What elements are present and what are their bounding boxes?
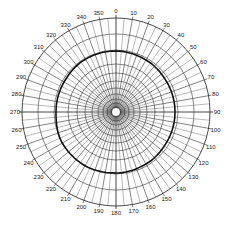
grid-spoke [62, 35, 114, 109]
grid-spoke [42, 50, 113, 110]
angle-label: 260 [12, 127, 23, 133]
angle-label: 190 [93, 208, 104, 214]
angle-label: 240 [24, 160, 35, 166]
grid-spoke [117, 116, 133, 208]
center-hub [113, 109, 119, 115]
grid-spoke [118, 115, 170, 189]
grid-spoke [99, 16, 115, 108]
angle-label: 230 [34, 174, 45, 180]
angle-label: 270 [10, 109, 21, 115]
angle-label: 0 [114, 8, 118, 14]
angle-label: 80 [212, 91, 219, 97]
angle-label: 330 [60, 22, 71, 28]
angle-label: 250 [16, 144, 27, 150]
grid-spoke [117, 16, 133, 108]
grid-spoke [119, 64, 200, 111]
angle-label: 290 [16, 74, 27, 80]
angle-label: 120 [198, 160, 209, 166]
grid-spoke [119, 50, 190, 110]
grid-spoke [119, 114, 193, 166]
angle-label: 40 [178, 32, 185, 38]
grid-spoke [118, 35, 170, 109]
angle-label: 160 [146, 204, 157, 210]
angle-label: 150 [161, 196, 172, 202]
angle-label: 130 [188, 174, 199, 180]
angle-label: 10 [130, 10, 137, 16]
angle-label: 320 [46, 32, 57, 38]
angle-label: 280 [12, 91, 23, 97]
grid-spoke [54, 115, 114, 186]
angle-label: 50 [190, 44, 197, 50]
grid-spoke [62, 115, 114, 189]
grid-spoke [20, 113, 112, 129]
polar-plot-svg: 0102030405060708090100110120130140150160… [0, 0, 227, 228]
grid-spoke [119, 115, 190, 175]
angle-label: 70 [208, 74, 215, 80]
grid-spoke [99, 116, 115, 208]
grid-spoke [54, 38, 114, 109]
grid-spoke [119, 38, 179, 109]
grid-spoke [39, 114, 113, 166]
angle-label: 30 [163, 22, 170, 28]
angle-label: 110 [206, 144, 216, 150]
angle-label: 170 [129, 208, 140, 214]
angle-label: 20 [147, 14, 154, 20]
polar-chart: 0102030405060708090100110120130140150160… [0, 0, 227, 228]
grid-spoke [120, 113, 212, 129]
grid-spoke [42, 115, 113, 175]
angle-label: 340 [76, 14, 87, 20]
angle-label: 210 [60, 196, 71, 202]
angle-label: 140 [176, 186, 187, 192]
angle-label: 60 [200, 59, 207, 65]
angle-label: 310 [34, 44, 45, 50]
grid-spoke [119, 115, 179, 186]
angle-label: 350 [93, 10, 104, 16]
angle-label: 100 [210, 127, 221, 133]
grid-spoke [119, 114, 200, 161]
angle-label: 220 [46, 186, 57, 192]
grid-spoke [120, 95, 212, 111]
angle-label: 200 [76, 204, 87, 210]
grid-spoke [68, 115, 115, 196]
grid-spoke [32, 114, 113, 161]
angle-label: 180 [111, 210, 122, 216]
grid-spoke [20, 95, 112, 111]
angle-label: 300 [24, 59, 35, 65]
angle-label: 90 [214, 109, 221, 115]
grid-spoke [119, 58, 193, 110]
